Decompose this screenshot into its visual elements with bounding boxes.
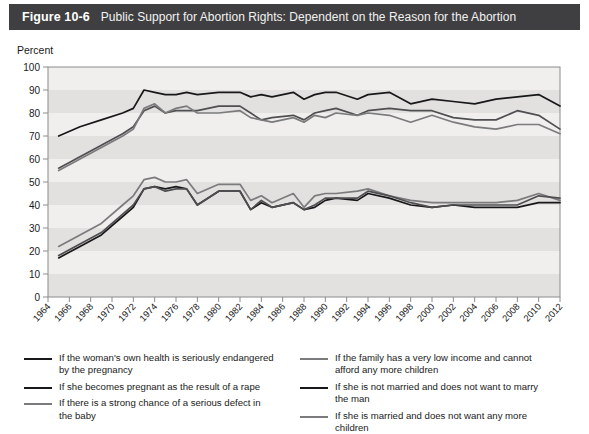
x-tick-label: 2010	[522, 302, 543, 324]
y-tick-label: 10	[29, 269, 41, 280]
x-tick-label: 2000	[415, 302, 436, 324]
series-line-2	[59, 104, 560, 171]
x-tick-label: 1996	[372, 302, 393, 324]
plot-band	[48, 228, 560, 251]
legend-swatch-icon	[24, 387, 52, 389]
y-tick-label: 50	[29, 177, 41, 188]
legend-swatch-icon	[300, 416, 328, 418]
x-tick-label: 1982	[223, 302, 244, 324]
x-tick-label: 1972	[116, 302, 137, 324]
x-tick-label: 1968	[74, 302, 95, 324]
legend-label: If there is a strong chance of a serious…	[59, 397, 274, 422]
series-line-0	[59, 90, 560, 136]
plot-background	[48, 67, 560, 297]
legend-swatch-icon	[24, 358, 52, 360]
plot-band	[48, 274, 560, 297]
x-tick-label: 1990	[308, 302, 329, 324]
x-tick-label: 1988	[287, 302, 308, 324]
legend-item: If there is a strong chance of a serious…	[24, 397, 300, 422]
chart-legend: If the woman's own health is seriously e…	[24, 352, 576, 418]
x-tick-label: 1964	[31, 302, 52, 324]
y-tick-label: 100	[23, 62, 40, 73]
x-tick-label: 2008	[500, 302, 521, 324]
x-tick-label: 1984	[244, 302, 265, 324]
y-tick-label: 60	[29, 154, 41, 165]
series-line-4	[59, 187, 560, 258]
x-tick-label: 1978	[180, 302, 201, 324]
legend-label: If the family has a very low income and …	[335, 352, 550, 377]
y-tick-label: 20	[29, 246, 41, 257]
legend-column-right: If the family has a very low income and …	[300, 352, 576, 418]
plot-border	[48, 67, 560, 297]
x-tick-label: 2004	[458, 302, 479, 324]
plot-band	[48, 136, 560, 159]
x-tick-label: 1998	[394, 302, 415, 324]
x-tick-label: 1970	[95, 302, 116, 324]
page-title: Public Support for Abortion Rights: Depe…	[101, 10, 516, 24]
x-tick-label: 1980	[202, 302, 223, 324]
legend-label: If she is married and does not want any …	[335, 410, 550, 434]
y-tick-label: 0	[34, 292, 40, 303]
legend-swatch-icon	[300, 358, 328, 360]
series-line-5	[59, 187, 560, 256]
legend-label: If she becomes pregnant as the result of…	[59, 381, 260, 393]
x-tick-label: 2012	[543, 302, 564, 324]
y-tick-label: 40	[29, 200, 41, 211]
x-tick-label: 1966	[52, 302, 73, 324]
y-tick-label: 70	[29, 131, 41, 142]
series-line-3	[59, 177, 560, 246]
legend-column-left: If the woman's own health is seriously e…	[24, 352, 300, 418]
legend-item: If the family has a very low income and …	[300, 352, 576, 377]
legend-item: If she is married and does not want any …	[300, 410, 576, 434]
x-tick-label: 1986	[266, 302, 287, 324]
x-tick-label: 1994	[351, 302, 372, 324]
legend-swatch-icon	[24, 403, 52, 405]
x-tick-label: 1992	[330, 302, 351, 324]
figure-header: Figure 10-6 Public Support for Abortion …	[9, 4, 580, 30]
legend-label: If she is not married and does not want …	[335, 381, 550, 406]
plot-band	[48, 182, 560, 205]
series-line-1	[59, 106, 560, 168]
legend-swatch-icon	[300, 387, 328, 389]
legend-item: If the woman's own health is seriously e…	[24, 352, 300, 377]
legend-item: If she is not married and does not want …	[300, 381, 576, 406]
x-tick-label: 1974	[138, 302, 159, 324]
figure-number: Figure 10-6	[22, 10, 90, 24]
y-tick-label: 30	[29, 223, 41, 234]
legend-item: If she becomes pregnant as the result of…	[24, 381, 300, 393]
x-tick-label: 1976	[159, 302, 180, 324]
legend-label: If the woman's own health is seriously e…	[59, 352, 274, 377]
x-tick-label: 2006	[479, 302, 500, 324]
y-axis-title: Percent	[17, 44, 53, 56]
plot-band	[48, 90, 560, 113]
y-tick-label: 80	[29, 108, 41, 119]
y-tick-label: 90	[29, 85, 41, 96]
x-tick-label: 2002	[436, 302, 457, 324]
